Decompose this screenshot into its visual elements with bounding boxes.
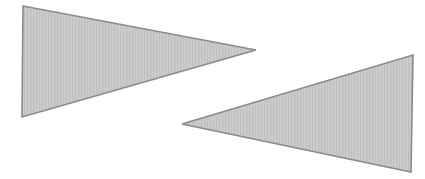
triangles-illustration xyxy=(0,0,425,179)
figure-canvas xyxy=(0,0,425,179)
